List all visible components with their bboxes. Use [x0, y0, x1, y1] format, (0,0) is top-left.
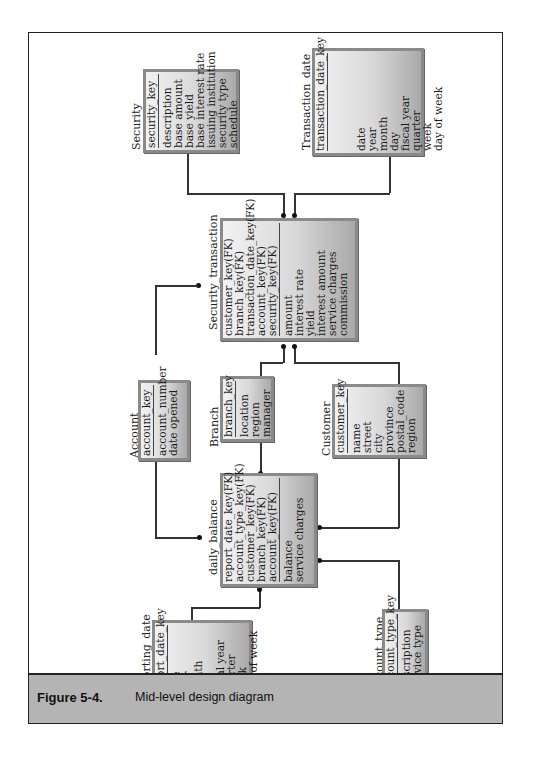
connector-security — [283, 193, 285, 215]
connector-account-type — [398, 560, 400, 612]
connector-branch-daily — [260, 440, 262, 473]
foreign-key: security_key(FK) — [267, 223, 280, 336]
primary-key: transaction_date_key — [315, 53, 328, 151]
connector-branch — [260, 362, 262, 376]
connector-customer-daily — [319, 527, 399, 529]
figure-number: Figure 5-4. — [37, 690, 103, 705]
attribute: schedule — [228, 74, 239, 148]
entity-box: customer_key name street city province p… — [332, 384, 426, 458]
connector-endpoint — [317, 525, 322, 530]
connector-transaction-date — [294, 193, 296, 215]
connector-transaction-date — [294, 193, 390, 195]
attribute: date opened — [168, 385, 179, 456]
foreign-key: account_key(FK) — [267, 478, 280, 582]
entity-title: daily_balance — [207, 499, 220, 575]
attribute: day of week — [433, 53, 444, 151]
primary-key: customer_key — [335, 389, 348, 453]
primary-key: security_key — [146, 74, 159, 148]
entity-box: report_date_key(FK) account_type_key(FK)… — [220, 473, 317, 587]
entity-box: branch_key location region manager — [220, 376, 274, 442]
connector-account — [155, 285, 157, 355]
connector-branch — [260, 362, 283, 364]
connector-endpoint — [292, 344, 297, 349]
connector-customer-daily — [398, 458, 400, 528]
entity-box: transaction_date_key date year month day… — [312, 48, 424, 156]
connector-customer — [398, 362, 400, 384]
attribute: service charges — [294, 478, 305, 582]
connector-security — [187, 193, 283, 195]
entity-box: security_key description base amount bas… — [143, 69, 239, 153]
connector-account-daily — [155, 537, 199, 539]
connector-endpoint — [281, 344, 286, 349]
primary-key: account_key — [141, 385, 154, 456]
entity-title: Security_transaction — [207, 214, 220, 330]
entity-title: Security — [130, 103, 143, 150]
figure-title: Mid-level design diagram — [135, 690, 274, 704]
entity-box: customer_key(FK) branch_key(FK) transact… — [220, 218, 358, 341]
connector-reporting-date — [191, 607, 260, 609]
figure-caption: Figure 5-4. Mid-level design diagram — [28, 673, 503, 724]
entity-box: account_key account_number date opened — [138, 380, 190, 461]
connector-security — [187, 152, 189, 194]
connector-reporting-date — [259, 590, 261, 608]
attribute: manager — [261, 381, 272, 437]
connector-account — [155, 285, 198, 287]
connector-transaction-date — [389, 155, 391, 193]
connector-customer — [294, 362, 399, 364]
attribute: commission — [338, 223, 349, 336]
attribute: region — [406, 389, 417, 453]
connector-endpoint — [197, 535, 202, 540]
connector-account-type — [319, 560, 399, 562]
primary-key: branch_key — [223, 381, 236, 437]
connector-endpoint — [317, 558, 322, 563]
connector-endpoint — [257, 587, 262, 592]
